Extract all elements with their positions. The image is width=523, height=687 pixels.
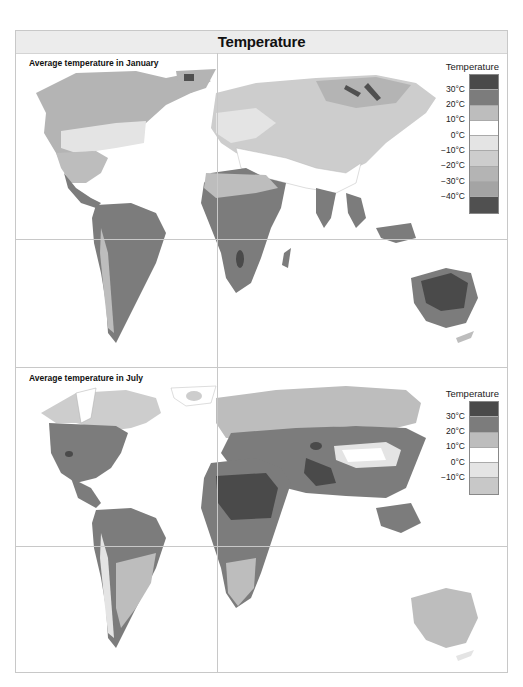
january-legend-title: Temperature [409,61,499,72]
legend-swatch-20-30 [470,417,498,432]
july-panel: Average temperature in July Temperature … [16,368,507,673]
legend-label: 10°C [446,114,465,124]
legend-label: 0°C [451,457,465,467]
legend-label: −40°C [441,191,465,201]
legend-swatch-below-minus40 [470,197,498,212]
header-bar: Temperature [16,31,507,54]
january-map-title: Average temperature in January [29,58,159,68]
legend-swatch-10-20 [470,106,498,121]
july-map-title: Average temperature in July [29,373,143,383]
legend-label: −10°C [441,145,465,155]
legend-label: 20°C [446,99,465,109]
legend-label: 30°C [446,84,465,94]
page-title: Temperature [16,33,507,50]
legend-swatch-above-30 [470,75,498,90]
legend-swatch-minus40-minus30 [470,182,498,197]
legend-label: 30°C [446,411,465,421]
equator-line [16,239,507,240]
legend-swatch-minus30-minus20 [470,167,498,182]
equator-line [16,546,507,547]
legend-swatch-above-30 [470,402,498,417]
legend-label: −30°C [441,176,465,186]
legend-label: 10°C [446,441,465,451]
july-legend: Temperature 30°C 20°C 10°C 0°C −10°C [409,388,499,495]
legend-label: 0°C [451,130,465,140]
temperature-atlas-frame: Temperature [15,30,508,673]
legend-swatch-minus20-minus10 [470,151,498,166]
legend-swatch-20-30 [470,90,498,105]
legend-swatch-0-10 [470,448,498,463]
legend-label: −10°C [441,472,465,482]
july-legend-title: Temperature [409,388,499,399]
legend-swatch-0-10 [470,121,498,136]
legend-swatch-10-20 [470,433,498,448]
meridian-line [217,368,218,673]
meridian-line [217,53,218,367]
legend-label: 20°C [446,426,465,436]
january-legend: Temperature 30°C 20°C 10°C 0°C −10°C [409,61,499,214]
legend-swatch-below-minus10 [470,478,498,493]
legend-label: −20°C [441,160,465,170]
july-legend-swatches [469,401,499,495]
legend-swatch-minus10-0 [470,136,498,151]
legend-swatch-minus10-0 [470,463,498,478]
january-panel: Average temperature in January Temperatu… [16,53,507,368]
january-legend-swatches [469,74,499,214]
